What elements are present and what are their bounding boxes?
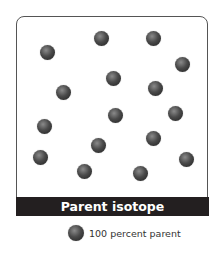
parent-atom — [175, 57, 190, 72]
legend: 100 percent parent — [68, 225, 181, 241]
parent-atom — [91, 138, 106, 153]
parent-atom — [40, 45, 55, 60]
parent-atom — [179, 152, 194, 167]
parent-atom — [77, 164, 92, 179]
sample-label: Parent isotope — [16, 197, 209, 216]
parent-atom — [146, 131, 161, 146]
parent-atom — [168, 106, 183, 121]
parent-atom — [37, 119, 52, 134]
parent-atom — [33, 150, 48, 165]
parent-atom — [56, 85, 71, 100]
parent-atom — [146, 31, 161, 46]
parent-atom — [94, 31, 109, 46]
parent-atom — [148, 81, 163, 96]
parent-atom — [108, 108, 123, 123]
parent-atom — [106, 71, 121, 86]
legend-text: 100 percent parent — [89, 228, 181, 239]
parent-atom-icon — [68, 225, 84, 241]
parent-atom — [133, 166, 148, 181]
